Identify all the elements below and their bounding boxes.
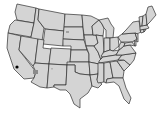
state-new-york[interactable] — [122, 21, 141, 34]
highlight-southern-california — [33, 70, 38, 74]
state-mississippi[interactable] — [97, 63, 104, 83]
us-map — [0, 0, 168, 114]
state-wyoming[interactable] — [43, 29, 64, 46]
state-nebraska[interactable] — [63, 39, 87, 50]
state-south-dakota[interactable] — [63, 27, 84, 40]
state-ohio[interactable] — [110, 37, 119, 51]
state-maryland[interactable] — [124, 42, 135, 46]
state-north-dakota[interactable] — [64, 14, 83, 27]
highlight-south-dakota — [66, 31, 69, 33]
state-indiana[interactable] — [104, 38, 110, 52]
state-arkansas[interactable] — [89, 62, 99, 75]
state-florida[interactable] — [106, 78, 131, 104]
state-kansas[interactable] — [70, 50, 89, 62]
state-new-mexico[interactable] — [47, 64, 67, 88]
state-maine[interactable] — [146, 6, 156, 25]
highlight-new-mexico — [51, 68, 53, 70]
marker-southern-california — [15, 65, 18, 68]
